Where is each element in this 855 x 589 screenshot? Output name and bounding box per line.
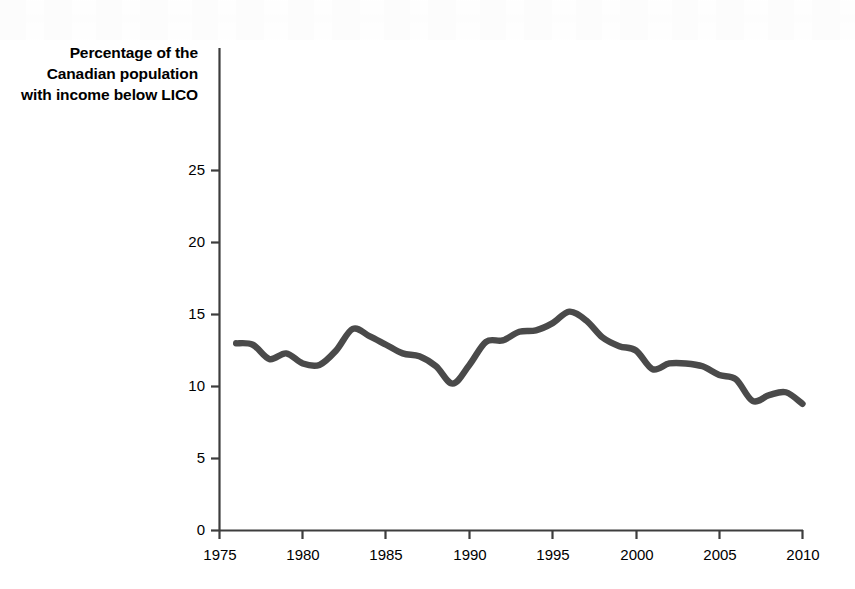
x-tick-label-1985: 1985 [356,546,416,563]
y-tick-label-20: 20 [165,233,205,250]
x-tick-label-2000: 2000 [607,546,667,563]
y-tick-label-10: 10 [165,377,205,394]
lico-line-chart-figure: Percentage of the Canadian population wi… [0,0,855,589]
y-tick-label-15: 15 [165,305,205,322]
data-series-line [236,312,802,404]
y-tick-label-0: 0 [165,521,205,538]
y-tick-label-25: 25 [165,161,205,178]
plot-area [0,0,855,589]
x-tick-label-1995: 1995 [523,546,583,563]
y-tick-label-5: 5 [165,449,205,466]
x-tick-label-1990: 1990 [440,546,500,563]
y-axis-ticks [211,171,219,531]
x-tick-label-2010: 2010 [773,546,833,563]
x-tick-label-1980: 1980 [273,546,333,563]
x-tick-label-1975: 1975 [190,546,250,563]
x-tick-label-2005: 2005 [690,546,750,563]
